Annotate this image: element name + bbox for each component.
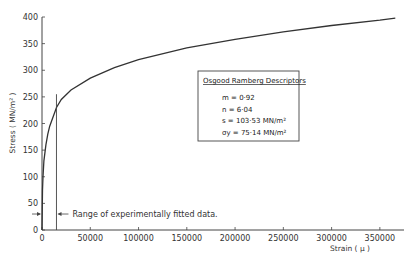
legend-title: Osgood Ramberg Descriptors [203,77,306,85]
x-tick-label: 100000 [123,234,154,243]
annotation-label: Range of experimentally fitted data. [72,210,217,219]
x-axis-title: Strain ( µ ) [330,244,370,253]
y-tick-label: 350 [23,40,38,49]
x-tick-label: 300000 [316,234,347,243]
y-tick-label: 250 [23,93,38,102]
x-tick-label: 350000 [365,234,396,243]
fitted-range-annotation: Range of experimentally fitted data. [32,94,218,230]
y-tick-label: 400 [23,13,38,22]
x-tick-label: 0 [39,234,44,243]
stress-strain-chart: 0500001000001500002000002500003000003500… [0,0,414,262]
y-axis-title: Stress ( MN/m² ) [8,92,17,153]
y-tick-label: 50 [28,199,38,208]
y-tick-label: 300 [23,66,38,75]
legend-line: s = 103·53 MN/m² [222,117,286,125]
x-tick-label: 200000 [220,234,251,243]
x-tick-label: 50000 [78,234,103,243]
x-tick-label: 150000 [172,234,203,243]
y-tick-label: 150 [23,146,38,155]
y-tick-label: 0 [33,226,38,235]
legend-line: σy = 75·14 MN/m² [222,129,287,137]
legend-line: m = 0·92 [222,94,255,102]
y-tick-label: 200 [23,120,38,129]
osgood-ramberg-box: Osgood Ramberg Descriptorsm = 0·92n = 6·… [198,71,306,141]
y-tick-label: 100 [23,173,38,182]
legend-line: n = 6·04 [222,106,253,114]
x-tick-label: 250000 [268,234,299,243]
